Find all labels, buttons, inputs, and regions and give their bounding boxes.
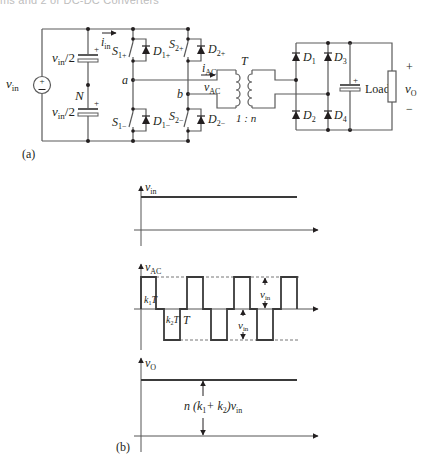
output-voltage-label: vO [405, 81, 417, 98]
diode-d1-label: D1 [302, 50, 316, 66]
amp-bottom-label: vin [238, 319, 249, 333]
switch-s1-plus-icon [129, 37, 150, 63]
output-plus: + [406, 60, 413, 74]
load-resistor-icon [388, 71, 396, 102]
svg-text:+: + [94, 98, 99, 108]
vac-axis-label: vAC [145, 260, 161, 276]
switch-s2-minus-icon [184, 107, 205, 133]
source-label: vin [6, 76, 19, 93]
diode-d4-label: D4 [333, 108, 347, 124]
diode-d2-minus-label: D2− [207, 112, 226, 128]
amp-top-label: vin [260, 288, 271, 302]
period-label: T [183, 313, 191, 327]
cap-bottom-label: vin/2 [52, 104, 75, 121]
load-label: Load [365, 82, 390, 96]
switch-s2-minus-label: S2− [169, 109, 184, 125]
diode-d4-icon [324, 111, 332, 119]
diode-d2-label: D2 [302, 108, 316, 124]
panel-label-b: (b) [116, 440, 130, 454]
diode-d2-plus-label: D2+ [207, 42, 226, 58]
turns-ratio-label: 1 : n [236, 112, 257, 124]
voltage-source-icon: + [34, 76, 51, 94]
input-current-label: iin [101, 35, 111, 51]
svg-text:+: + [39, 76, 44, 86]
switch-s1-minus-label: S1− [112, 115, 127, 131]
ac-wire-a [133, 70, 236, 80]
diode-d2-icon [292, 111, 300, 119]
switch-s2-plus-icon [184, 37, 205, 63]
transformer-label: T [241, 54, 249, 68]
k2t-label: k2T [166, 314, 180, 326]
node-b-label: b [177, 87, 183, 101]
ac-current-label: iAC [202, 61, 216, 77]
waveform-vin: vin [134, 180, 318, 246]
node-a-label: a [122, 73, 128, 87]
circuit-diagram: + vin + + vin/2 vin/2 N iin [6, 27, 417, 161]
panel-label-a: (a) [22, 147, 35, 161]
svg-text:+: + [94, 44, 99, 54]
diode-d1-plus-label: D1+ [152, 44, 171, 60]
ac-wire-b [188, 94, 236, 108]
vin-axis-label: vin [145, 180, 157, 196]
diode-d1-icon [292, 53, 300, 61]
neutral-label: N [74, 88, 85, 103]
switch-s1-plus-label: S1+ [112, 44, 127, 60]
transformer-icon [236, 70, 328, 108]
switch-s1-minus-icon [129, 107, 150, 133]
diode-d3-label: D3 [333, 50, 347, 66]
cap-top-label: vin/2 [52, 50, 75, 67]
ac-voltage-label: vAC [204, 80, 220, 96]
vo-expression: n (k1+ k2)vin [184, 399, 242, 415]
diode-d1-minus-label: D1− [152, 114, 171, 130]
converter-figure: + vin + + vin/2 vin/2 N iin [0, 0, 432, 468]
output-minus: − [406, 102, 413, 116]
k1t-label: k1T [144, 294, 158, 306]
waveform-vo: vO n (k1+ k2)vin [134, 356, 318, 452]
switch-s2-plus-label: S2+ [169, 37, 184, 53]
vo-axis-label: vO [145, 356, 156, 372]
diode-d3-icon [324, 53, 332, 61]
waveform-vac: vAC k1T k2T T vin vin [134, 260, 318, 350]
svg-text:+: + [353, 75, 358, 85]
